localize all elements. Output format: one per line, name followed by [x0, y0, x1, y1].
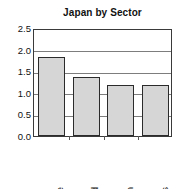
axis-minor-tick: [138, 136, 139, 140]
y-axis-tick-label: 0.5: [5, 110, 31, 119]
y-axis-tick-label: 1.5: [5, 67, 31, 76]
bar: [142, 85, 169, 136]
y-axis-tick-label: 1.0: [5, 89, 31, 98]
bar: [107, 85, 134, 136]
axis-minor-tick: [104, 136, 105, 140]
plot-area: [33, 29, 172, 137]
x-axis-tick-label: Food: [89, 187, 100, 189]
bar-chart: Japan by Sector 0.00.51.01.52.02.5 Texti…: [0, 0, 186, 189]
y-axis-tick-label: 0.0: [5, 132, 31, 141]
bar: [38, 57, 65, 136]
x-axis-tick-label: Textile: [54, 187, 65, 189]
bar: [73, 77, 100, 136]
y-axis-tick-labels: 0.00.51.01.52.02.5: [0, 0, 31, 189]
axis-minor-tick: [69, 136, 70, 140]
x-axis-tick-labels: TextileFoodEnginStores: [33, 141, 172, 189]
x-axis-tick-label: Engin: [124, 187, 135, 189]
x-axis-tick-label: Stores: [159, 187, 170, 189]
y-axis-tick-label: 2.5: [5, 24, 31, 33]
gridline: [34, 51, 171, 52]
chart-title: Japan by Sector: [33, 7, 172, 18]
y-axis-tick-label: 2.0: [5, 46, 31, 55]
